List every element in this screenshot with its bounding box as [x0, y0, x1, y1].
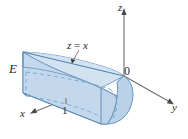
- figure-container: E z = x 0 1 x y z: [0, 0, 188, 139]
- origin-label: 0: [124, 65, 130, 77]
- axis-x-arrowhead: [30, 108, 37, 114]
- x-axis-tick-label-1: 1: [62, 105, 68, 116]
- plane-equation-equals: =: [71, 39, 83, 51]
- region-label-E: E: [9, 62, 17, 75]
- solid-region-diagram: [0, 0, 188, 139]
- plane-equation-x: x: [83, 39, 88, 51]
- axis-label-x: x: [20, 108, 25, 119]
- axis-label-y: y: [172, 102, 177, 113]
- axis-label-z: z: [118, 2, 122, 13]
- solid-region-E: [23, 52, 133, 124]
- plane-equation-label: z = x: [67, 40, 88, 51]
